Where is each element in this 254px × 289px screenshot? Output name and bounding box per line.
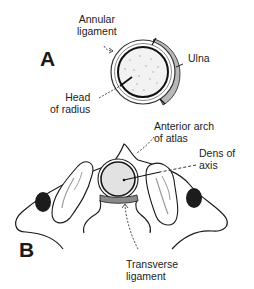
label-transverse-ligament: Transverse ligament xyxy=(126,259,178,282)
diagram-canvas xyxy=(0,0,254,289)
right-foramen xyxy=(186,188,202,208)
panel-b-drawing xyxy=(16,137,228,249)
anatomy-figure: A B Annular ligament Ulna Head of radius… xyxy=(0,0,254,289)
label-anterior-arch: Anterior arch of atlas xyxy=(154,121,214,144)
panel-b-letter: B xyxy=(19,239,34,261)
label-ulna: Ulna xyxy=(188,53,210,65)
label-head-of-radius: Head of radius xyxy=(50,92,90,115)
label-dens-of-axis: Dens of axis xyxy=(199,148,235,171)
panel-a-drawing xyxy=(99,38,183,105)
left-foramen xyxy=(35,192,51,212)
radius-head xyxy=(118,47,168,97)
panel-a-letter: A xyxy=(40,48,55,70)
anterior-arch-leader xyxy=(137,137,154,153)
label-annular-ligament: Annular ligament xyxy=(77,14,117,37)
